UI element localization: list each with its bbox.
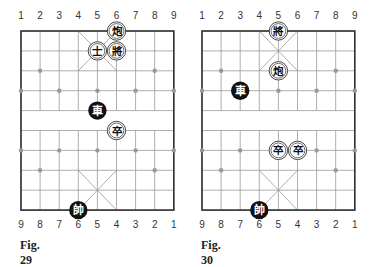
svg-text:將: 將: [273, 25, 284, 37]
file-number-bottom: 8: [215, 220, 227, 230]
position-marker: [200, 89, 204, 93]
position-marker: [276, 89, 280, 93]
file-number-bottom: 6: [253, 220, 265, 230]
black-marshal-piece: 帥: [250, 201, 268, 219]
position-marker: [314, 148, 318, 152]
file-number-bottom: 4: [292, 220, 304, 230]
white-general-piece: 將: [269, 22, 287, 40]
file-number-top: 3: [234, 11, 246, 21]
white-soldier-piece: 卒: [269, 141, 287, 159]
file-number-top: 9: [349, 11, 361, 21]
file-number-bottom: 9: [196, 220, 208, 230]
file-number-bottom: 5: [272, 220, 284, 230]
file-number-bottom: 1: [349, 220, 361, 230]
file-number-top: 7: [311, 11, 323, 21]
position-marker: [219, 69, 223, 73]
white-soldier-piece: 卒: [288, 141, 306, 159]
file-number-top: 8: [330, 11, 342, 21]
svg-text:卒: 卒: [273, 144, 284, 156]
file-number-top: 6: [292, 11, 304, 21]
file-number-top: 5: [272, 11, 284, 21]
black-chariot-piece: 車: [231, 82, 249, 100]
svg-text:炮: 炮: [272, 65, 284, 77]
position-marker: [219, 168, 223, 172]
svg-text:卒: 卒: [293, 144, 304, 156]
position-marker: [334, 69, 338, 73]
file-number-bottom: 7: [234, 220, 246, 230]
position-marker: [238, 148, 242, 152]
file-number-bottom: 3: [311, 220, 323, 230]
file-number-top: 1: [196, 11, 208, 21]
position-marker: [314, 89, 318, 93]
file-number-top: 4: [253, 11, 265, 21]
position-marker: [334, 168, 338, 172]
file-number-top: 2: [215, 11, 227, 21]
svg-text:車: 車: [235, 84, 246, 98]
white-cannon-piece: 炮: [269, 62, 287, 80]
position-marker: [200, 148, 204, 152]
position-marker: [353, 89, 357, 93]
svg-text:帥: 帥: [254, 203, 265, 217]
figure-caption: Fig. 30: [201, 238, 221, 267]
file-number-bottom: 2: [330, 220, 342, 230]
position-marker: [353, 148, 357, 152]
